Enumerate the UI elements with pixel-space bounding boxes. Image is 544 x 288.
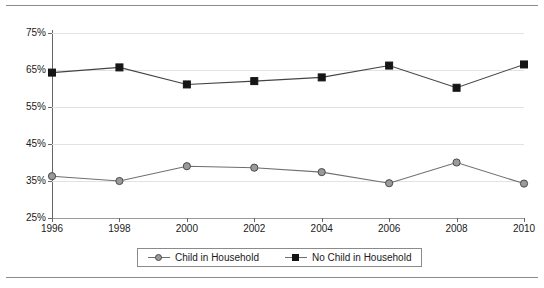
data-point-marker: [48, 173, 55, 180]
square-marker-icon: [285, 253, 307, 263]
data-point-marker: [251, 78, 258, 85]
data-point-marker: [453, 84, 460, 91]
data-point-marker: [116, 64, 123, 71]
circle-marker-icon: [148, 253, 170, 263]
data-point-marker: [49, 69, 56, 76]
legend-label-child: Child in Household: [175, 253, 259, 263]
data-point-marker: [183, 163, 190, 170]
data-point-marker: [520, 180, 527, 187]
data-point-marker: [521, 61, 528, 68]
data-point-marker: [251, 164, 258, 171]
data-point-marker: [453, 159, 460, 166]
chart-figure: 25%35%45%55%65%75% 199619982000200220042…: [0, 0, 544, 288]
data-point-marker: [116, 177, 123, 184]
data-point-marker: [183, 81, 190, 88]
data-point-marker: [386, 180, 393, 187]
legend-entry-no-child[interactable]: No Child in Household: [285, 253, 412, 263]
legend-label-no-child: No Child in Household: [312, 253, 412, 263]
series-layer: [0, 0, 544, 288]
chart-legend: Child in Household No Child in Household: [137, 248, 422, 267]
data-point-marker: [318, 169, 325, 176]
legend-entry-child[interactable]: Child in Household: [148, 253, 259, 263]
data-point-marker: [386, 62, 393, 69]
data-point-marker: [318, 74, 325, 81]
